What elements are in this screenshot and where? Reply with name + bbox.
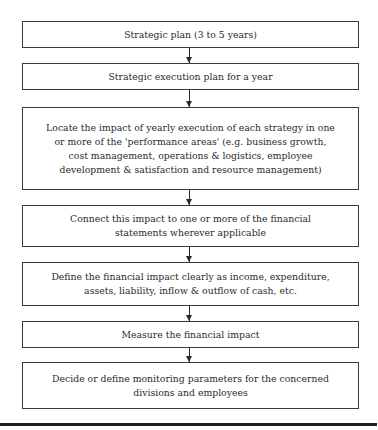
step-locate-impact: Locate the impact of yearly execution of… xyxy=(22,107,359,190)
down-arrow-icon xyxy=(189,348,190,362)
step-label: Define the financial impact clearly as i… xyxy=(45,270,336,298)
step-strategic-plan: Strategic plan (3 to 5 years) xyxy=(22,21,359,48)
step-label: Strategic execution plan for a year xyxy=(108,70,272,84)
down-arrow-icon xyxy=(189,247,190,262)
step-monitoring-parameters: Decide or define monitoring parameters f… xyxy=(22,362,359,409)
step-define-impact: Define the financial impact clearly as i… xyxy=(22,262,359,306)
step-label: Strategic plan (3 to 5 years) xyxy=(124,28,257,42)
bottom-rule-divider xyxy=(0,423,377,426)
step-label: Connect this impact to one or more of th… xyxy=(49,212,332,240)
step-connect-impact: Connect this impact to one or more of th… xyxy=(22,205,359,247)
step-execution-plan: Strategic execution plan for a year xyxy=(22,63,359,90)
step-label: Measure the financial impact xyxy=(121,328,259,342)
down-arrow-icon xyxy=(189,90,190,107)
down-arrow-icon xyxy=(189,190,190,205)
step-label: Locate the impact of yearly execution of… xyxy=(45,121,336,177)
step-measure-impact: Measure the financial impact xyxy=(22,321,359,348)
step-label: Decide or define monitoring parameters f… xyxy=(49,372,332,400)
down-arrow-icon xyxy=(189,48,190,63)
down-arrow-icon xyxy=(189,306,190,321)
